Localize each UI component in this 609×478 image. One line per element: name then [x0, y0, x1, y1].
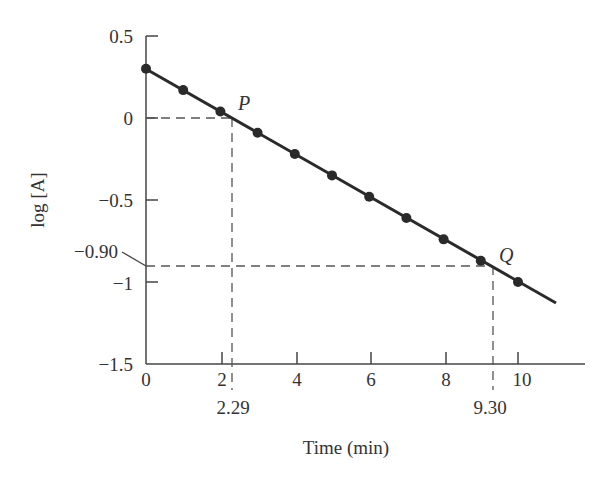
- x-tick-label: 8: [441, 369, 451, 390]
- q-x-label: 9.30: [473, 397, 506, 418]
- x-ticks: [222, 352, 518, 364]
- data-point: [513, 277, 523, 287]
- data-point: [253, 128, 263, 138]
- p-x-label: 2.29: [216, 397, 249, 418]
- data-point: [364, 192, 374, 202]
- x-tick-label: 6: [366, 369, 376, 390]
- x-tick-label: 4: [292, 369, 302, 390]
- y-tick-label: −1.5: [99, 354, 133, 375]
- data-point: [401, 213, 411, 223]
- fit-line: [146, 69, 556, 303]
- y-tick-label: −0.5: [99, 190, 133, 211]
- chart: 0.5 0 −0.5 −1 −1.5 −0.90 0 2 4 6 8 10 2.…: [0, 0, 609, 478]
- y-tick-label: 0.5: [109, 26, 133, 47]
- x-tick-label: 2: [217, 369, 227, 390]
- guide-lines: [146, 118, 493, 390]
- label-leader: [122, 252, 146, 266]
- data-point: [215, 106, 225, 116]
- data-point: [439, 234, 449, 244]
- x-axis-label: Time (min): [303, 437, 389, 459]
- data-point: [476, 256, 486, 266]
- data-point: [178, 85, 188, 95]
- data-point: [290, 149, 300, 159]
- y-ticks: [146, 118, 158, 282]
- x-tick-label: 0: [141, 369, 151, 390]
- data-point: [327, 170, 337, 180]
- data-point: [141, 64, 151, 74]
- q-y-label: −0.90: [74, 241, 118, 262]
- point-q-label: Q: [499, 244, 514, 266]
- y-tick-label: −1: [113, 273, 133, 294]
- y-tick-label: 0: [124, 108, 134, 129]
- x-tick-label: 10: [513, 369, 532, 390]
- point-p-label: P: [237, 92, 250, 114]
- y-axis-label: log [A]: [27, 172, 48, 227]
